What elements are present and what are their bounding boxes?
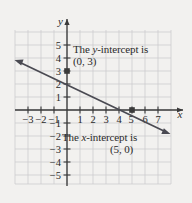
point-marker-y-intercept — [64, 68, 70, 74]
xint-text-post: -intercept is — [86, 131, 137, 143]
xtick-label-2: 2 — [90, 114, 95, 125]
annotation-x-intercept: The x-intercept is (5, 0) — [62, 132, 137, 155]
yint-text-post: -intercept is — [97, 43, 148, 55]
point-marker-x-intercept — [129, 107, 135, 113]
x-axis-label: x — [177, 108, 183, 120]
ytick-label-3: 3 — [56, 66, 61, 77]
ytick-label-4: 4 — [56, 53, 62, 64]
ytick-label--5: −5 — [50, 170, 61, 181]
xtick-label--3: −3 — [22, 114, 33, 125]
xint-text-pre: The — [62, 131, 81, 143]
xtick-label-7: 7 — [155, 114, 160, 125]
ytick-label--2: −2 — [50, 131, 61, 142]
y-axis-arrowhead — [64, 19, 69, 25]
ytick-label-5: 5 — [56, 40, 61, 51]
annotation-y-intercept: The y-intercept is (0, 3) — [73, 44, 148, 67]
xtick-label-3: 3 — [103, 114, 108, 125]
figure-container: −3 −2 −1 1 2 3 4 5 6 7 5 4 3 2 1 −1 −2 −… — [0, 0, 192, 203]
line-arrowhead-left — [15, 60, 24, 66]
xtick-label-4: 4 — [116, 114, 122, 125]
xint-coordinates: (5, 0) — [62, 144, 137, 156]
coordinate-plane-chart: −3 −2 −1 1 2 3 4 5 6 7 5 4 3 2 1 −1 −2 −… — [0, 0, 192, 203]
yint-text-pre: The — [73, 43, 92, 55]
ytick-label--1: −1 — [50, 118, 61, 129]
xtick-label--2: −2 — [35, 114, 46, 125]
line-arrowhead-right — [161, 128, 170, 134]
yint-coordinates: (0, 3) — [73, 55, 96, 67]
y-axis-label: y — [57, 15, 63, 27]
xtick-label-1: 1 — [77, 114, 82, 125]
ytick-label--4: −4 — [50, 157, 62, 168]
ytick-label-1: 1 — [56, 92, 61, 103]
ytick-label--3: −3 — [50, 144, 61, 155]
